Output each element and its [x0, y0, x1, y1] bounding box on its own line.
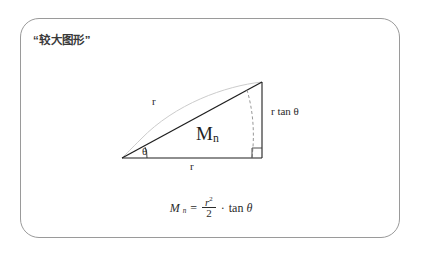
formula-numerator-exponent: 2: [209, 195, 212, 202]
formula-numerator: r2: [202, 196, 216, 208]
formula-fraction: r2 2: [202, 196, 216, 220]
formula-trig: tan θ: [229, 201, 253, 216]
label-region-subscript: n: [213, 132, 219, 145]
label-hypotenuse-r: r: [152, 95, 156, 107]
formula-equals: =: [189, 201, 198, 216]
label-region-base: M: [196, 123, 213, 144]
formula-block: Mn = r2 2 · tan θ: [0, 196, 422, 220]
label-region-mn: Mn: [196, 123, 219, 145]
formula-lhs-var: M: [170, 201, 180, 216]
formula-trig-arg: θ: [246, 201, 252, 215]
page-title: “较大图形”: [33, 31, 91, 47]
figure-canvas: “较大图形” r r θ r tan θ Mn Mn = r2 2: [0, 0, 422, 254]
formula-denominator: 2: [203, 208, 215, 219]
label-base-r: r: [190, 160, 194, 172]
label-angle-theta: θ: [142, 145, 147, 157]
formula-lhs-subscript: n: [183, 207, 187, 215]
formula-multiply: ·: [220, 201, 226, 216]
formula-trig-name: tan: [229, 201, 244, 215]
label-opposite-side: r tan θ: [271, 105, 299, 117]
